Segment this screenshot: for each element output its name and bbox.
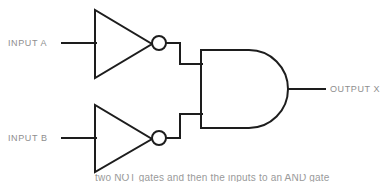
and-gate-body — [201, 50, 288, 128]
caption-strip: two NOT gates and then the inputs to an … — [0, 174, 385, 182]
not-gate-b-bubble-icon — [152, 131, 166, 145]
not-gate-a-bubble-icon — [152, 36, 166, 50]
not-gate-b-triangle — [95, 105, 152, 172]
not-gate-a-triangle — [95, 10, 152, 78]
wire-not-a-to-and — [166, 43, 202, 64]
wire-not-b-to-and — [166, 114, 202, 138]
input-a-label: INPUT A — [8, 39, 47, 48]
logic-circuit-diagram: INPUT A INPUT B OUTPUT X two NOT gates a… — [0, 0, 385, 182]
circuit-schematic-canvas — [0, 0, 385, 182]
caption-text: two NOT gates and then the inputs to an … — [95, 174, 330, 182]
output-x-label: OUTPUT X — [330, 85, 380, 94]
input-b-label: INPUT B — [8, 134, 48, 143]
